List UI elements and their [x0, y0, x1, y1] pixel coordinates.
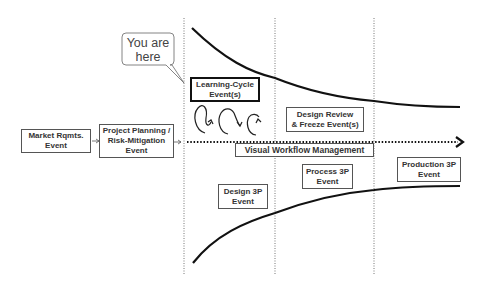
connector-arrow-icon: [92, 139, 99, 143]
design-review-line-1: Design Review: [291, 110, 358, 120]
project-planning-event[interactable]: Project Planning / Risk-Mitigation Event: [99, 124, 174, 158]
production-3p-event[interactable]: Production 3P Event: [397, 157, 461, 182]
learning-cycle-event[interactable]: Learning-Cycle Event(s): [190, 77, 260, 102]
design3p-line-1: Design 3P: [224, 187, 263, 197]
timeline-arrow-head-icon: [456, 137, 463, 147]
learning-cycle-loops-icon: [195, 106, 261, 135]
process3p-line-2: Event: [306, 177, 349, 187]
connector-arrow-icon: [174, 140, 181, 144]
process3p-line-1: Process 3P: [306, 167, 349, 177]
you-are-here-callout: You are here: [122, 34, 174, 65]
process-3p-event[interactable]: Process 3P Event: [302, 164, 353, 189]
market-rqmts-event[interactable]: Market Rqmts. Event: [21, 129, 91, 153]
planning-line-2: Risk-Mitigation: [103, 136, 171, 146]
market-line-1: Market Rqmts.: [28, 131, 83, 141]
callout-line-1: You are: [127, 36, 170, 50]
design-review-freeze-event[interactable]: Design Review & Freeze Event(s): [286, 107, 364, 132]
market-line-2: Event: [28, 141, 83, 151]
planning-line-3: Event: [103, 146, 171, 156]
callout-line-2: here: [135, 50, 160, 64]
production3p-line-1: Production 3P: [402, 160, 456, 170]
vwm-label: Visual Workflow Management: [245, 145, 365, 155]
visual-workflow-management[interactable]: Visual Workflow Management: [235, 143, 374, 157]
learning-line-2: Event(s): [196, 90, 254, 100]
learning-line-1: Learning-Cycle: [196, 80, 254, 90]
design3p-line-2: Event: [224, 197, 263, 207]
design-review-line-2: & Freeze Event(s): [291, 120, 358, 130]
production3p-line-2: Event: [402, 170, 456, 180]
planning-line-1: Project Planning /: [103, 126, 171, 136]
design-3p-event[interactable]: Design 3P Event: [218, 184, 268, 209]
